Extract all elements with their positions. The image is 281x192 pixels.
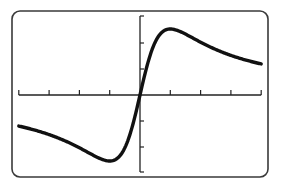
graph-screen [0, 0, 281, 192]
